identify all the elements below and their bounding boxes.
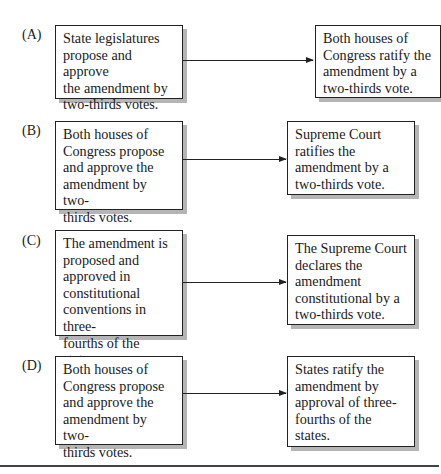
option-d-ratification-box: States ratify the amendment by approval … — [287, 356, 415, 447]
option-a-proposal-box: State legislatures propose and approve t… — [55, 25, 183, 99]
option-c-proposal-box: The amendment is proposed and approved i… — [55, 230, 183, 336]
option-b-ratification-box: Supreme Court ratifies the amendment by … — [287, 121, 415, 195]
option-a-label: (A) — [22, 27, 41, 43]
option-a-arrow — [183, 60, 313, 61]
option-b-proposal-box: Both houses of Congress propose and appr… — [55, 121, 183, 210]
option-d-proposal-box: Both houses of Congress propose and appr… — [55, 356, 183, 445]
option-b-label: (B) — [22, 123, 41, 139]
option-a-ratification-box: Both houses of Congress ratify the amend… — [315, 25, 441, 98]
option-d-arrow — [183, 393, 286, 394]
option-b-arrow — [183, 159, 286, 160]
option-c-ratification-box: The Supreme Court declares the amendment… — [287, 235, 415, 325]
option-c-label: (C) — [22, 233, 41, 249]
option-d-label: (D) — [22, 358, 41, 374]
bottom-divider — [0, 465, 439, 467]
option-c-arrow — [183, 282, 286, 283]
